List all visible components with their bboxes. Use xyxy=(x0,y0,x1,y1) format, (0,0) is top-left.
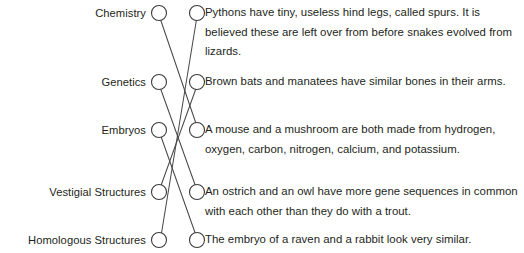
statement-5: The embryo of a raven and a rabbit look … xyxy=(205,230,524,250)
left-label-embryos: Embryos xyxy=(0,124,146,137)
bubble-right-statement-5[interactable] xyxy=(190,233,205,248)
left-bubbles[interactable] xyxy=(152,6,167,248)
connection-line-vestigial-to-r2 xyxy=(161,89,196,186)
bubble-left-chemistry[interactable] xyxy=(152,6,167,21)
left-label-homologous-structures: Homologous Structures xyxy=(0,234,146,247)
connection-line-homologous-to-r1 xyxy=(162,20,197,234)
connection-line-genetics-to-r4 xyxy=(161,89,196,187)
statement-3: A mouse and a mushroom are both made fro… xyxy=(205,120,524,159)
left-label-genetics: Genetics xyxy=(0,76,146,89)
matching-worksheet: Chemistry Genetics Embryos Vestigial Str… xyxy=(0,0,524,253)
bubble-left-genetics[interactable] xyxy=(152,75,167,90)
left-label-chemistry: Chemistry xyxy=(0,7,146,20)
connection-line-embryos-to-r5 xyxy=(161,137,196,235)
right-bubbles[interactable] xyxy=(190,6,205,248)
left-term-column: Chemistry Genetics Embryos Vestigial Str… xyxy=(0,0,152,253)
bubble-right-statement-3[interactable] xyxy=(190,123,205,138)
bubble-left-vestigial-structures[interactable] xyxy=(152,185,167,200)
statement-1: Pythons have tiny, useless hind legs, ca… xyxy=(205,3,524,62)
statement-2: Brown bats and manatees have similar bon… xyxy=(205,72,524,92)
connection-line-chemistry-to-r3 xyxy=(161,20,197,124)
right-statement-column: Pythons have tiny, useless hind legs, ca… xyxy=(205,0,524,253)
statement-4: An ostrich and an owl have more gene seq… xyxy=(205,182,524,221)
bubble-left-embryos[interactable] xyxy=(152,123,167,138)
bubble-right-statement-4[interactable] xyxy=(190,185,205,200)
bubble-left-homologous-structures[interactable] xyxy=(152,233,167,248)
left-label-vestigial-structures: Vestigial Structures xyxy=(0,186,146,199)
connection-lines xyxy=(161,20,197,235)
bubble-right-statement-1[interactable] xyxy=(190,6,205,21)
bubble-right-statement-2[interactable] xyxy=(190,75,205,90)
